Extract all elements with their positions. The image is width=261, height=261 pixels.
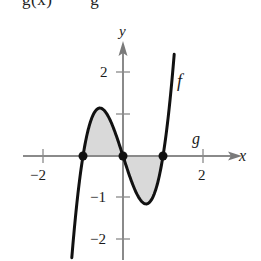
x-tick-label-neg2: −2 [30, 167, 46, 183]
y-tick-label-neg2: −2 [90, 231, 106, 247]
intersection-point-1 [159, 152, 168, 161]
y-axis-label: y [117, 23, 126, 39]
intersection-point-0 [119, 152, 128, 161]
y-tick-label-2: 2 [100, 64, 108, 80]
graph-figure: y x f g −2 2 2 −1 −2 [0, 0, 261, 261]
intersection-point-neg1 [79, 152, 88, 161]
curve-f-label: f [177, 71, 185, 91]
y-tick-label-neg1: −1 [90, 189, 106, 205]
x-axis-label: x [238, 147, 246, 164]
curve-g-label: g [192, 130, 200, 148]
x-tick-label-2: 2 [198, 167, 206, 183]
